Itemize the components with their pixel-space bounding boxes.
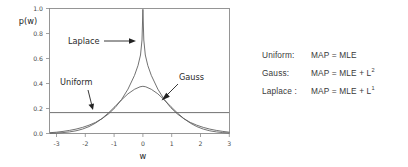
laplace-annotation: Laplace	[68, 36, 136, 46]
uniform-annotation-label: Uniform	[60, 77, 93, 87]
x-tick-label: -1	[111, 140, 117, 147]
x-tick-label: 2	[199, 140, 203, 147]
x-tick-label: -3	[53, 140, 59, 147]
uniform-annotation: Uniform	[60, 77, 94, 110]
equation-superscript-laplace: 1	[371, 85, 374, 91]
equation-base-uniform: MAP = MLE	[311, 50, 357, 60]
y-tick-label: 0.4	[33, 80, 43, 87]
plot-frame	[50, 9, 230, 134]
equation-row-gauss: Gauss: MAP = MLE + L2	[262, 68, 408, 84]
x-tick-label: 1	[170, 140, 174, 147]
x-axis-title: w	[140, 151, 147, 161]
probability-density-chart: 0.0 0.2 0.4 0.6 0.8 1.0 p(w) -3	[0, 0, 245, 167]
equation-panel: Uniform: MAP = MLE Gauss: MAP = MLE + L2…	[262, 50, 408, 104]
y-tick-label: 0.6	[33, 55, 43, 62]
equation-label-uniform: Uniform:	[262, 50, 311, 60]
x-axis-tick-labels: -3 -2 -1 0 1 2 3	[53, 140, 231, 147]
figure-root: 0.0 0.2 0.4 0.6 0.8 1.0 p(w) -3	[0, 0, 408, 167]
y-tick-label: 1.0	[33, 5, 43, 12]
equation-base-laplace: MAP = MLE + L	[311, 86, 371, 96]
gauss-arrow-line	[166, 84, 178, 96]
y-tick-label: 0.0	[33, 130, 43, 137]
x-tick-label: 3	[227, 140, 231, 147]
equation-text-uniform: MAP = MLE	[311, 50, 357, 60]
equation-superscript-gauss: 2	[371, 67, 374, 73]
laplace-annotation-label: Laplace	[68, 36, 100, 46]
y-tick-label: 0.8	[33, 30, 43, 37]
equation-base-gauss: MAP = MLE + L	[311, 68, 371, 78]
equation-text-laplace: MAP = MLE + L1	[311, 86, 375, 96]
equation-label-laplace: Laplace :	[262, 86, 311, 96]
equation-text-gauss: MAP = MLE + L2	[311, 68, 375, 78]
uniform-arrow-line	[88, 90, 92, 104]
x-axis-ticks	[57, 134, 230, 138]
gauss-density-curve	[50, 86, 229, 133]
equation-row-uniform: Uniform: MAP = MLE	[262, 50, 408, 66]
laplace-arrow-head	[129, 38, 136, 44]
gauss-annotation: Gauss	[162, 72, 205, 101]
y-tick-label: 0.2	[33, 105, 43, 112]
gauss-annotation-label: Gauss	[179, 72, 204, 82]
y-axis-ticks	[46, 9, 50, 134]
uniform-arrow-head	[89, 103, 95, 110]
y-axis-title: p(w)	[19, 16, 37, 26]
equation-label-gauss: Gauss:	[262, 68, 311, 78]
laplace-density-curve	[50, 9, 229, 132]
x-tick-label: -2	[82, 140, 88, 147]
x-tick-label: 0	[141, 140, 145, 147]
equation-row-laplace: Laplace : MAP = MLE + L1	[262, 86, 408, 102]
